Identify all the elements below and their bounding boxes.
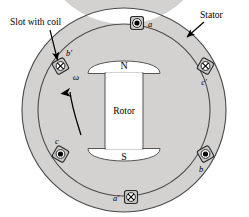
slot-b-label: b: [199, 164, 203, 174]
rotor-body-label: Rotor: [113, 106, 135, 116]
slot-a-prime-label: a′: [113, 193, 119, 203]
slot-c-prime-label: c′: [201, 77, 207, 87]
slot-with-coil-label: Slot with coil: [10, 17, 62, 27]
slot-a-prime[interactable]: a′: [113, 191, 138, 204]
stator-leader-line: [187, 22, 204, 37]
annotation-stator: Stator: [187, 10, 224, 37]
rotor-north-label: N: [120, 60, 127, 71]
slot-a-label: a: [148, 19, 152, 29]
figure-canvas: N Rotor S ω a c′: [0, 0, 249, 217]
slot-c-label: c: [55, 136, 59, 146]
motor-cross-section-diagram: N Rotor S ω a c′: [0, 0, 249, 217]
rotor-south-label: S: [121, 151, 127, 162]
slot-a[interactable]: a: [131, 17, 153, 30]
omega-label: ω: [73, 72, 79, 82]
current-out-of-page-icon: [203, 151, 208, 156]
stator-label: Stator: [200, 10, 224, 20]
current-out-of-page-icon: [58, 151, 63, 156]
slot-b-prime-label: b′: [66, 48, 72, 58]
current-out-of-page-icon: [134, 20, 139, 25]
